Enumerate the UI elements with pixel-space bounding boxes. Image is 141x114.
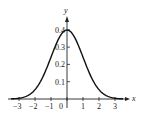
x-axis-label: x <box>131 94 136 103</box>
x-tick-label: 1 <box>81 102 85 111</box>
y-axis-label: y <box>63 6 68 15</box>
x-tick-label: −1 <box>45 102 54 111</box>
normal-curve-chart: x y −3−2−10123 0.10.20.30.4 <box>0 0 141 114</box>
x-tick-label: 2 <box>97 102 101 111</box>
x-tick-label: −3 <box>13 102 22 111</box>
x-axis-arrow-icon <box>125 97 130 101</box>
y-tick-label: 0.2 <box>55 60 65 69</box>
y-tick-label: 0.1 <box>55 78 65 87</box>
x-tick-label: 3 <box>113 102 117 111</box>
axes: x y <box>8 6 136 108</box>
x-tick-label: 0 <box>59 102 63 111</box>
y-ticks: 0.10.20.30.4 <box>55 26 70 87</box>
y-axis-arrow-icon <box>65 16 69 22</box>
x-tick-label: −2 <box>29 102 38 111</box>
y-tick-label: 0.4 <box>55 26 65 35</box>
